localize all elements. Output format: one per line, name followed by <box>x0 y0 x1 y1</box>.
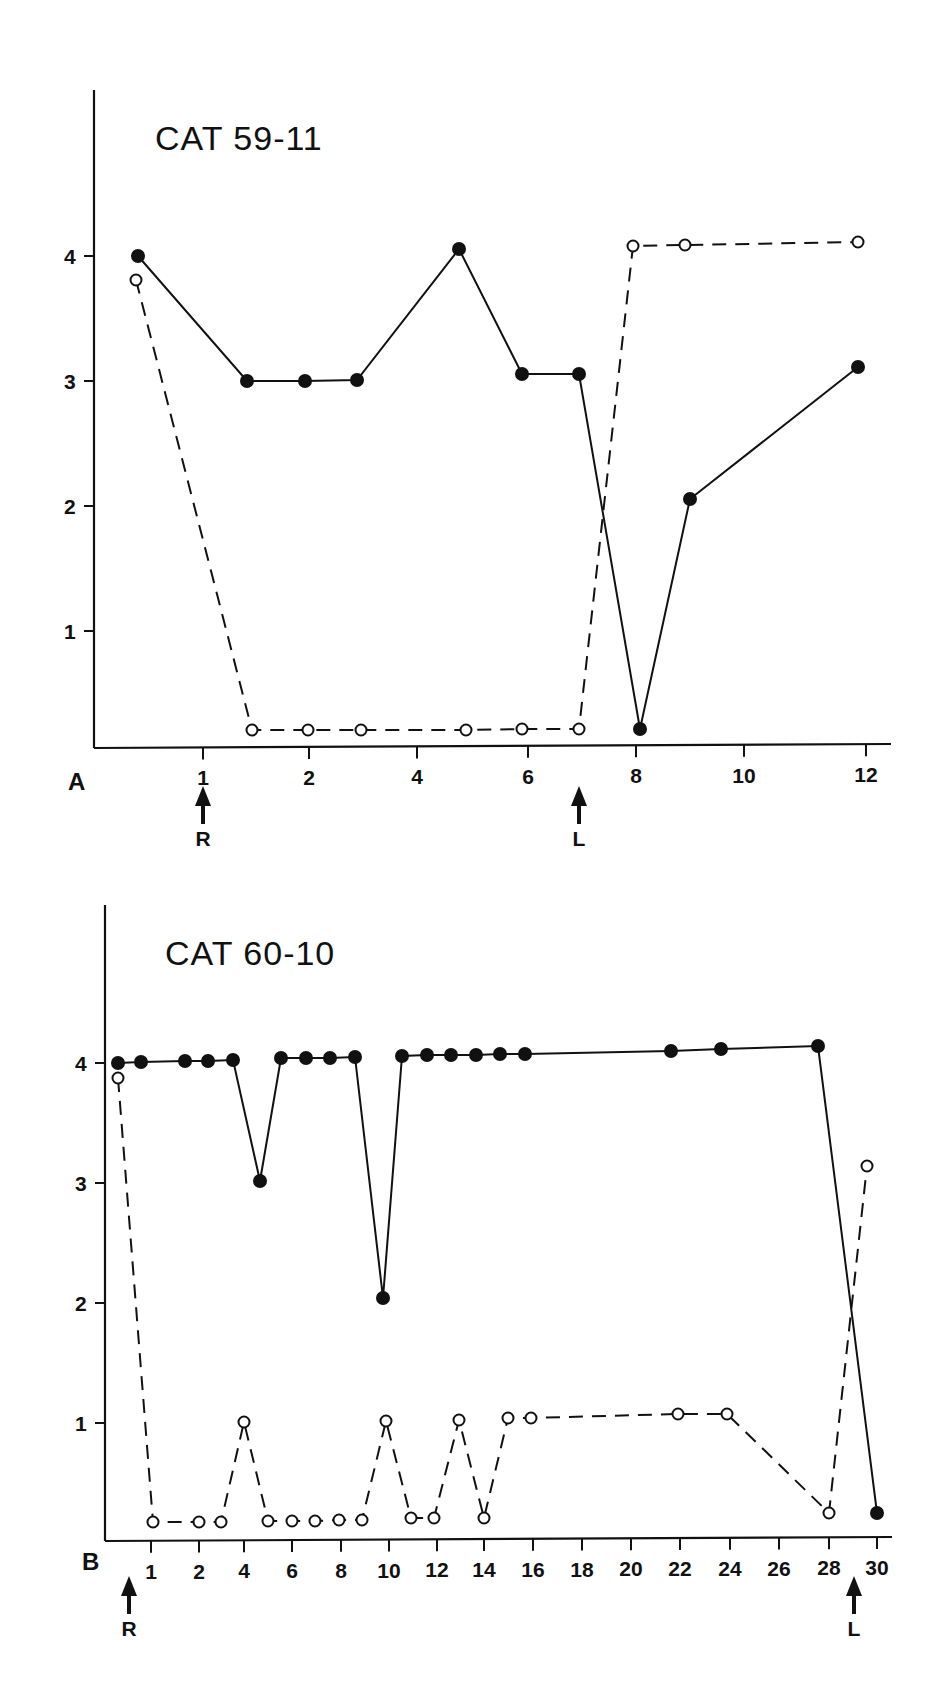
open-circle-marker <box>381 1416 392 1427</box>
filled-circle-marker <box>112 1057 124 1069</box>
open-circle-marker <box>310 1516 321 1527</box>
y-tick-label: 1 <box>64 620 76 643</box>
open-circle-marker <box>454 1415 465 1426</box>
open-circle-marker <box>628 241 639 252</box>
x-tick-label: 30 <box>865 1556 888 1579</box>
x-tick-label: 28 <box>817 1556 841 1579</box>
filled-circle-marker <box>445 1049 457 1061</box>
y-tick-label: 4 <box>64 245 76 268</box>
panel-a-arrows: RL <box>195 786 587 850</box>
filled-circle-marker <box>324 1052 336 1064</box>
panel-b-title: CAT 60-10 <box>165 934 335 972</box>
filled-circle-marker <box>396 1050 408 1062</box>
up-arrow-icon <box>571 786 587 806</box>
filled-circle-marker <box>275 1052 287 1064</box>
filled-circle-marker <box>494 1048 506 1060</box>
filled-circle-marker <box>254 1175 266 1187</box>
open-circle-marker <box>853 237 864 248</box>
filled-circle-marker <box>227 1054 239 1066</box>
open-circle-marker <box>479 1513 490 1524</box>
filled-circle-marker <box>812 1040 824 1052</box>
open-circle-marker <box>406 1513 417 1524</box>
x-tick-label: 2 <box>303 766 315 789</box>
x-tick-label: 6 <box>286 1559 298 1582</box>
open-circle-marker <box>680 240 691 251</box>
x-tick-label: 16 <box>521 1558 544 1581</box>
filled-circle-marker <box>715 1043 727 1055</box>
x-tick-label: 8 <box>335 1559 347 1582</box>
filled-circle-marker <box>241 375 253 387</box>
panel-a-label: A <box>68 768 85 795</box>
x-tick-label: 24 <box>718 1557 742 1580</box>
open-circle-marker <box>148 1517 159 1528</box>
filled-series-line <box>118 1046 877 1513</box>
open-circle-marker <box>722 1409 733 1420</box>
filled-circle-marker <box>179 1055 191 1067</box>
filled-circle-marker <box>852 361 864 373</box>
filled-series-line <box>138 249 858 729</box>
x-tick-label: 18 <box>570 1558 594 1581</box>
arrow-label-l: L <box>848 1617 861 1640</box>
open-circle-marker <box>673 1409 684 1420</box>
x-tick-label: 8 <box>630 764 642 787</box>
open-circle-marker <box>239 1417 250 1428</box>
open-circle-marker <box>334 1515 345 1526</box>
up-arrow-icon <box>121 1576 137 1596</box>
open-circle-marker <box>247 725 258 736</box>
y-tick-label: 2 <box>75 1292 87 1315</box>
figure: CAT 59-11 A 1234124681012 RL CAT 60-10 B… <box>0 0 947 1695</box>
open-series-line <box>118 1078 867 1522</box>
y-tick-label: 2 <box>64 495 76 518</box>
y-tick-label: 1 <box>75 1412 87 1435</box>
arrow-label-l: L <box>573 827 586 850</box>
open-circle-marker <box>263 1516 274 1527</box>
x-tick-label: 10 <box>732 764 755 787</box>
x-tick-label: 12 <box>854 763 877 786</box>
x-tick-label: 1 <box>145 1560 157 1583</box>
open-series-line <box>136 242 858 730</box>
panel-a-series <box>131 237 865 736</box>
filled-circle-marker <box>519 1048 531 1060</box>
filled-circle-marker <box>349 1051 361 1063</box>
open-circle-marker <box>216 1517 227 1528</box>
filled-circle-marker <box>573 368 585 380</box>
open-circle-marker <box>461 725 472 736</box>
x-tick-label: 2 <box>193 1560 205 1583</box>
filled-circle-marker <box>634 723 646 735</box>
open-circle-marker <box>194 1517 205 1528</box>
filled-circle-marker <box>421 1049 433 1061</box>
x-tick-label: 6 <box>522 765 534 788</box>
panel-b-chart: CAT 60-10 B 1234124681012141618202224262… <box>75 905 892 1640</box>
filled-circle-marker <box>453 243 465 255</box>
y-tick-label: 3 <box>75 1172 87 1195</box>
filled-circle-marker <box>377 1292 389 1304</box>
open-circle-marker <box>824 1508 835 1519</box>
panel-b-axes: 1234124681012141618202224262830 <box>75 905 892 1583</box>
open-circle-marker <box>429 1513 440 1524</box>
up-arrow-icon <box>846 1576 862 1596</box>
open-circle-marker <box>357 1515 368 1526</box>
panel-b-x-axis <box>105 1537 892 1541</box>
filled-circle-marker <box>300 1052 312 1064</box>
open-circle-marker <box>303 725 314 736</box>
open-circle-marker <box>862 1161 873 1172</box>
arrow-label-r: R <box>195 827 210 850</box>
open-circle-marker <box>526 1413 537 1424</box>
x-tick-label: 10 <box>377 1559 400 1582</box>
open-circle-marker <box>131 275 142 286</box>
open-circle-marker <box>356 725 367 736</box>
filled-circle-marker <box>470 1049 482 1061</box>
filled-circle-marker <box>351 374 363 386</box>
filled-circle-marker <box>516 368 528 380</box>
y-tick-label: 3 <box>64 370 76 393</box>
open-circle-marker <box>517 724 528 735</box>
panel-a-x-axis <box>94 744 891 748</box>
open-circle-marker <box>113 1073 124 1084</box>
panel-a-chart: CAT 59-11 A 1234124681012 RL <box>64 90 891 850</box>
x-tick-label: 14 <box>472 1558 496 1581</box>
x-tick-label: 4 <box>411 765 423 788</box>
panel-a-title: CAT 59-11 <box>155 119 323 157</box>
x-tick-label: 26 <box>767 1557 790 1580</box>
x-tick-label: 12 <box>425 1558 448 1581</box>
filled-circle-marker <box>135 1056 147 1068</box>
